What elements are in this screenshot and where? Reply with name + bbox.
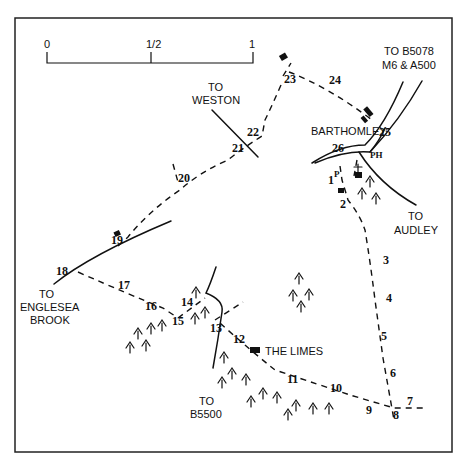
walk-route [78,63,425,420]
waypoint-6: 6 [390,366,396,380]
waypoint-4: 4 [386,291,392,305]
waypoint-22: 22 [247,125,259,139]
waypoint-8: 8 [393,408,399,422]
scale-label-0: 0 [44,38,50,50]
scale-label-1: 1 [249,38,255,50]
waypoint-12: 12 [233,332,245,346]
waypoint-20: 20 [178,171,190,185]
label-pub: PH [370,150,383,160]
waypoint-9: 9 [366,403,372,417]
waypoint-5: 5 [381,329,387,343]
waypoint-2: 2 [340,197,346,211]
label-to-englesea-3: BROOK [30,314,70,326]
label-to-weston-2: WESTON [192,94,240,106]
road-audley [359,152,416,205]
waypoint-1: 1 [328,173,334,187]
waypoint-18: 18 [56,264,68,278]
label-barthomley: BARTHOMLEY [311,125,387,137]
waypoint-13: 13 [210,321,222,335]
waypoint-21: 21 [232,141,244,155]
waypoint-17: 17 [118,278,130,292]
label-to-englesea-2: ENGLESEA [20,301,80,313]
scale-bar: 0 1/2 1 [44,38,255,63]
waypoint-14: 14 [181,295,193,309]
road-englesea [54,221,171,284]
place-labels: BARTHOMLEY THE LIMES PH P TO WESTON TO B… [20,45,439,420]
waypoint-19: 19 [111,233,123,247]
waypoint-7: 7 [407,394,413,408]
label-parking: P [334,169,340,179]
map-frame [15,18,452,452]
label-to-audley-1: TO [408,210,424,222]
label-to-weston-1: TO [208,81,224,93]
label-to-englesea-1: TO [39,288,55,300]
waypoint-26: 26 [332,141,344,155]
label-the-limes: THE LIMES [265,345,323,357]
label-to-audley-2: AUDLEY [394,224,439,236]
waypoint-16: 16 [145,299,157,313]
waypoint-25: 25 [379,125,391,139]
label-to-b5078-2: M6 & A500 [382,59,436,71]
label-to-b5078-1: TO B5078 [384,45,434,57]
waypoint-24: 24 [329,73,341,87]
waypoint-15: 15 [172,314,184,328]
waypoint-10: 10 [330,381,342,395]
walk-route-map: 0 1/2 1 [0,0,463,466]
waypoint-23: 23 [284,72,296,86]
label-to-b5500-1: TO [199,395,215,407]
waypoint-3: 3 [383,253,389,267]
scale-label-half: 1/2 [146,38,161,50]
label-to-b5500-2: B5500 [190,408,222,420]
waypoint-11: 11 [287,372,298,386]
